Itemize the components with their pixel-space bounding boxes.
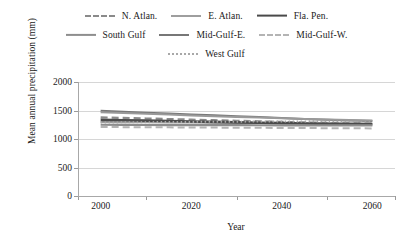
series-line-south-gulf xyxy=(101,125,373,126)
precipitation-line-chart: N. Atlan.E. Atlan.Fla. Pen.South GulfMid… xyxy=(0,0,413,244)
series-line-mid-gulf-w xyxy=(101,127,373,128)
series-line-mid-gulf-e-upper xyxy=(101,112,373,120)
data-series-layer xyxy=(0,0,413,244)
plot-area: Mean annual precipitation (mm) Year 2000… xyxy=(0,0,413,244)
